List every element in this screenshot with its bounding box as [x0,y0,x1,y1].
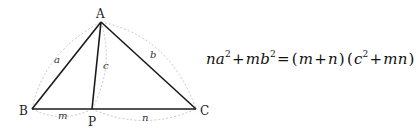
eq-term: mn [383,50,407,68]
vertex-label-p: P [88,115,96,129]
eq-operator: + [314,50,327,68]
segment-label-a: a [54,54,60,65]
segment-label-c: c [103,60,109,71]
segment-label-n: n [142,112,148,123]
eq-operator: = [277,50,290,68]
stewart-equation: na2+mb2=(m+n)(c2+mn) [206,49,416,68]
eq-paren: ) [339,50,345,68]
eq-exponent: 2 [225,49,231,59]
vertex-label-a: A [95,7,105,21]
vertex-label-b: B [19,104,28,118]
eq-exponent: 2 [270,49,276,59]
side-ac [101,22,196,109]
eq-paren: ( [292,50,298,68]
segment-label-b: b [150,49,156,60]
eq-operator: + [232,50,245,68]
eq-paren: ( [347,50,353,68]
eq-exponent: 2 [363,49,369,59]
eq-term: c [354,50,363,68]
eq-term: n [328,50,338,68]
eq-term: mb [246,50,270,68]
cevian-ap [92,22,101,109]
side-ab [32,22,101,109]
eq-term: na [206,50,225,68]
eq-paren: ) [409,50,415,68]
vertex-label-c: C [200,104,209,118]
eq-operator: + [370,50,383,68]
eq-term: m [299,50,313,68]
segment-label-m: m [58,110,67,121]
